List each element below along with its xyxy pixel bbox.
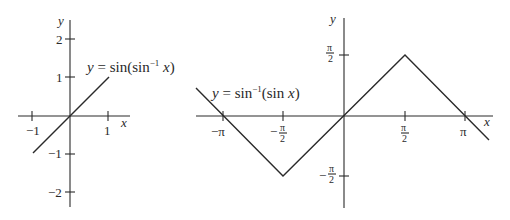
right-y-tick-label-neg-half-pi: − π 2 (319, 163, 336, 185)
left-y-tick-label-neg1: −1 (48, 146, 62, 161)
svg-text:π: π (329, 163, 334, 174)
right-x-tick-label-half-pi: π 2 (401, 122, 409, 144)
svg-text:2: 2 (280, 133, 285, 144)
svg-text:2: 2 (328, 53, 333, 64)
left-y-tick-label-neg2: −2 (48, 185, 62, 200)
svg-text:2: 2 (402, 133, 407, 144)
right-x-axis-label: x (483, 114, 490, 129)
left-x-axis-label: x (120, 115, 127, 130)
diagram-canvas: −1 1 2 1 −1 −2 x y y = sin(sin−1 x) −π −… (0, 0, 510, 220)
left-y-tick-label-2: 2 (56, 32, 63, 47)
left-x-tick-label-1: 1 (104, 123, 111, 138)
right-y-tick-label-half-pi: π 2 (326, 42, 334, 64)
svg-text:−: − (319, 168, 326, 183)
svg-text:π: π (327, 42, 332, 53)
right-equation-label: y = sin−1(sin x) (210, 84, 300, 102)
left-y-axis-label: y (56, 13, 64, 28)
right-x-tick-label-neg-pi: −π (211, 124, 225, 139)
svg-text:π: π (280, 122, 285, 133)
left-y-tick-label-1: 1 (56, 70, 63, 85)
right-x-tick-label-neg-half-pi: − π 2 (270, 122, 287, 144)
right-graph: −π − π 2 π 2 π π 2 − π 2 x y y = si (196, 11, 493, 208)
svg-text:−: − (270, 124, 277, 139)
svg-text:π: π (401, 122, 406, 133)
right-y-axis-label: y (328, 11, 336, 26)
left-x-tick-label-neg1: −1 (26, 123, 40, 138)
right-x-tick-label-pi: π (460, 124, 467, 139)
left-equation-label: y = sin(sin−1 x) (85, 58, 175, 76)
svg-text:2: 2 (329, 174, 334, 185)
left-curve (33, 77, 109, 153)
left-graph: −1 1 2 1 −1 −2 x y y = sin(sin−1 x) (18, 13, 175, 207)
